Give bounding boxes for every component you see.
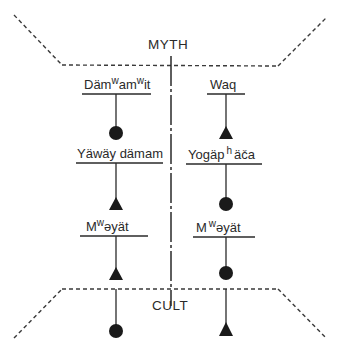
circle-symbol — [219, 266, 233, 280]
triangle-symbol — [219, 126, 233, 139]
label-sup: w — [209, 218, 216, 229]
label-sup: h — [226, 145, 232, 156]
cult-boundary — [14, 289, 326, 338]
label-part: äča — [234, 147, 255, 162]
circle-symbol — [109, 324, 123, 338]
label-mweyat-right: Mwəyät — [196, 221, 241, 235]
label-part: it — [144, 77, 151, 92]
label-part: M — [196, 220, 207, 235]
myth-label: MYTH — [148, 38, 188, 52]
label-mweyat-left: Mwəyät — [86, 220, 129, 234]
label-part: Däm — [84, 77, 111, 92]
circle-symbol — [219, 197, 233, 211]
label-waq: Waq — [210, 78, 236, 92]
label-yaway-damam: Yäwäy dämam — [77, 147, 163, 161]
label-part: əyät — [104, 219, 129, 234]
label-sup: w — [111, 75, 118, 86]
label-damwamwit: Dämwamwit — [84, 78, 150, 92]
label-part: am — [119, 77, 137, 92]
triangle-symbol — [109, 197, 123, 210]
label-sup: w — [137, 75, 144, 86]
cult-label: CULT — [152, 299, 188, 313]
triangle-symbol — [109, 267, 123, 280]
triangle-symbol — [219, 322, 233, 336]
label-part: əyät — [216, 220, 241, 235]
label-part: M — [86, 219, 97, 234]
label-part: Yogäp — [188, 147, 224, 162]
circle-symbol — [109, 126, 123, 140]
label-sup: w — [97, 217, 104, 228]
label-yogaphaca: Yogäphäča — [188, 148, 255, 162]
